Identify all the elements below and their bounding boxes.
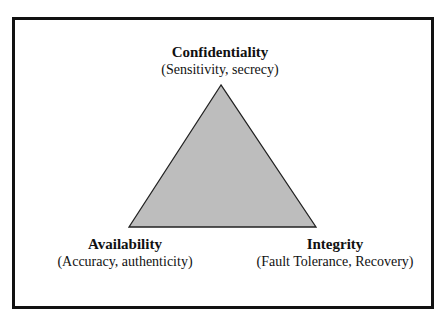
cia-triangle — [129, 85, 316, 227]
vertex-availability: Availability (Accuracy, authenticity) — [40, 235, 210, 271]
availability-title: Availability — [40, 235, 210, 253]
integrity-subtitle: (Fault Tolerance, Recovery) — [240, 253, 430, 271]
integrity-title: Integrity — [240, 235, 430, 253]
confidentiality-subtitle: (Sensitivity, secrecy) — [120, 61, 320, 79]
confidentiality-title: Confidentiality — [120, 43, 320, 61]
vertex-confidentiality: Confidentiality (Sensitivity, secrecy) — [120, 43, 320, 79]
availability-subtitle: (Accuracy, authenticity) — [40, 253, 210, 271]
vertex-integrity: Integrity (Fault Tolerance, Recovery) — [240, 235, 430, 271]
